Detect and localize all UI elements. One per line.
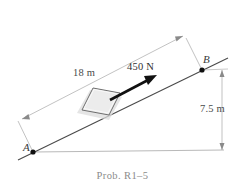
point-a-marker <box>30 149 35 154</box>
incline-surface-line <box>18 58 228 160</box>
figure-container: 18 m 7.5 m 450 N A B Prob. R1–5 <box>0 0 245 193</box>
dimension-arrowhead-right <box>175 36 183 42</box>
height-arrowhead-bottom <box>220 143 225 150</box>
dimension-extension-line-b <box>186 38 202 70</box>
point-b-label: B <box>203 53 210 65</box>
incline-problem-diagram: 18 m 7.5 m 450 N A B <box>0 0 245 193</box>
force-arrow-shaft <box>110 79 150 100</box>
point-b-marker <box>199 67 204 72</box>
length-dimension-label: 18 m <box>73 67 95 78</box>
ground-baseline <box>33 150 224 152</box>
figure-caption: Prob. R1–5 <box>0 170 245 181</box>
dimension-arrowhead-left <box>22 114 30 120</box>
point-a-label: A <box>22 141 30 153</box>
height-arrowhead-top <box>220 70 225 77</box>
force-arrow-head <box>144 75 157 85</box>
force-label: 450 N <box>127 61 154 72</box>
height-dimension-label: 7.5 m <box>200 103 225 114</box>
